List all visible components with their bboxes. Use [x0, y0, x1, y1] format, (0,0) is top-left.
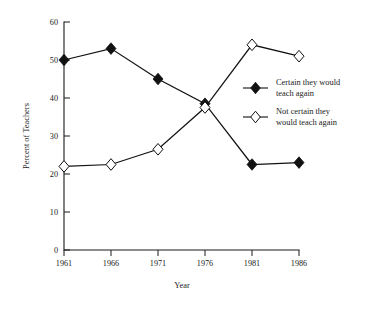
legend-entry-not-certain: Not certain they would teach again [243, 107, 338, 127]
open-diamond-marker [59, 161, 69, 173]
x-tick-label: 1976 [197, 259, 213, 268]
series-certain [59, 43, 304, 171]
chart-axes [64, 22, 299, 250]
series-line [64, 45, 299, 167]
y-axis-tick-labels: 60 50 40 30 20 10 0 [50, 18, 58, 255]
legend-label-line1: Not certain they [276, 107, 331, 116]
series-line [64, 49, 299, 165]
y-tick-label: 10 [50, 208, 58, 217]
filled-diamond-marker [294, 157, 304, 169]
open-diamond-marker [106, 159, 116, 171]
y-tick-label: 40 [50, 94, 58, 103]
filled-diamond-marker [153, 73, 163, 85]
x-axis-tick-labels: 1961 1966 1971 1976 1981 1986 [56, 259, 307, 268]
filled-diamond-marker [59, 54, 69, 66]
y-tick-label: 30 [50, 132, 58, 141]
line-chart: 60 50 40 30 20 10 0 1961 1966 1971 1976 … [0, 0, 375, 310]
open-diamond-icon [251, 111, 261, 123]
legend-label-line1: Certain they would [276, 78, 341, 87]
x-tick-label: 1986 [291, 259, 307, 268]
filled-diamond-icon [251, 82, 261, 94]
y-axis-title: Percent of Teachers [22, 103, 31, 169]
open-diamond-marker [294, 50, 304, 62]
legend-label-line2: teach again [276, 89, 315, 98]
x-tick-label: 1961 [56, 259, 72, 268]
chart-container: 60 50 40 30 20 10 0 1961 1966 1971 1976 … [0, 0, 375, 310]
x-axis-ticks [64, 250, 299, 256]
x-tick-label: 1971 [150, 259, 166, 268]
series-not-certain [59, 39, 304, 172]
x-tick-label: 1966 [103, 259, 119, 268]
x-tick-label: 1981 [244, 259, 260, 268]
y-tick-label: 60 [50, 18, 58, 27]
x-axis-title: Year [174, 281, 190, 290]
y-tick-label: 0 [54, 246, 58, 255]
chart-legend: Certain they would teach again Not certa… [243, 78, 341, 127]
y-tick-label: 50 [50, 56, 58, 65]
chart-series-layer [59, 39, 304, 172]
legend-label-line2: would teach again [276, 118, 338, 127]
legend-entry-certain: Certain they would teach again [243, 78, 341, 98]
y-tick-label: 20 [50, 170, 58, 179]
filled-diamond-marker [106, 43, 116, 55]
open-diamond-marker [153, 144, 163, 156]
